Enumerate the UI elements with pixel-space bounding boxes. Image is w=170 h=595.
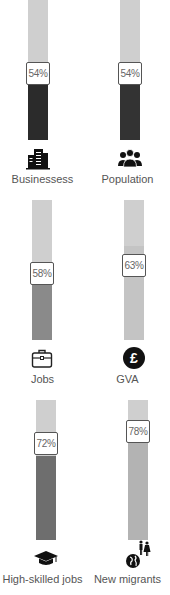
- bar-fill: [28, 84, 48, 140]
- globe-migrants-icon: [125, 538, 151, 570]
- category-label: High-skilled jobs: [0, 573, 85, 585]
- bar-fill: [36, 456, 56, 540]
- buildings-icon: [26, 146, 50, 170]
- category-label: New migrants: [85, 573, 170, 585]
- bar-track: 78%: [128, 400, 148, 540]
- category-label: GVA: [85, 373, 170, 385]
- category-label: Jobs: [0, 373, 85, 385]
- percent-label: 54%: [26, 62, 50, 85]
- bar-fill: [32, 284, 52, 340]
- bar-fill: [128, 430, 148, 540]
- graduation-cap-icon: [34, 546, 58, 570]
- bar-item-businesses: 54% Businessess: [0, 0, 85, 200]
- bar-item-gva: 63% £ GVA: [85, 200, 170, 400]
- bar-item-jobs: 58% Jobs: [0, 200, 85, 400]
- percent-label: 58%: [30, 262, 54, 285]
- bar-item-new-migrants: 78% New migrants: [85, 400, 170, 595]
- pound-coin-icon: £: [122, 346, 146, 370]
- bar-item-population: 54% Population: [85, 0, 170, 200]
- bar-track: 58%: [32, 200, 52, 340]
- bar-track: 63%: [124, 200, 144, 340]
- percent-label: 54%: [118, 62, 142, 85]
- category-label: Population: [85, 173, 170, 185]
- briefcase-icon: [30, 346, 54, 370]
- svg-text:£: £: [130, 350, 138, 366]
- bar-fill: [120, 84, 140, 140]
- percent-label: 72%: [34, 432, 58, 455]
- bar-track: 54%: [28, 0, 48, 140]
- bar-track: 54%: [120, 0, 140, 140]
- percent-label: 63%: [122, 254, 146, 277]
- bar-track: 72%: [36, 400, 56, 540]
- percent-label: 78%: [126, 420, 150, 443]
- category-label: Businessess: [0, 173, 85, 185]
- bar-item-high-skilled-jobs: 72% High-skilled jobs: [0, 400, 85, 595]
- people-group-icon: [118, 146, 142, 170]
